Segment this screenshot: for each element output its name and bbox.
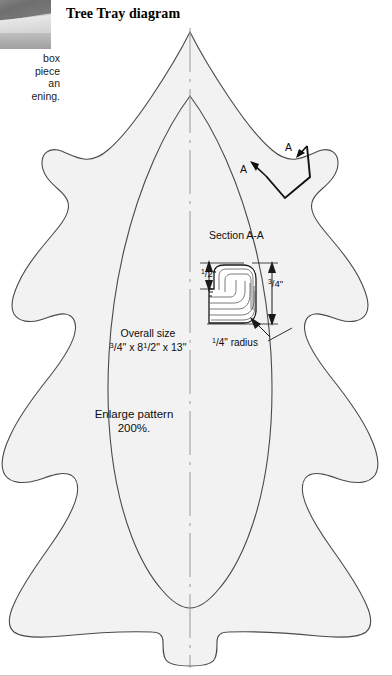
- dimension-label-three-quarter-inch: 3/4": [268, 278, 283, 289]
- enlarge-pattern-note: Enlarge pattern 200%.: [78, 408, 190, 435]
- dim-three-denominator: /4": [272, 278, 283, 289]
- dim-half-denominator: /2": [205, 268, 216, 279]
- section-mark-a-right: A: [285, 141, 292, 153]
- radius-denominator: /4" radius: [216, 337, 258, 348]
- overall-size-label: Overall size: [92, 327, 204, 340]
- dimension-label-half-inch: 1/2": [201, 268, 216, 279]
- section-mark-a-left: A: [240, 163, 247, 175]
- tree-tray-diagram-page: box piece an ening. Tree Tray diagram: [0, 0, 392, 676]
- overall-size-text-2: /2" x 13": [147, 341, 186, 353]
- enlarge-line-1: Enlarge pattern: [78, 408, 190, 422]
- overall-size-value: 3/4" x 81/2" x 13": [92, 340, 204, 354]
- radius-label: 1/4" radius: [212, 336, 258, 348]
- enlarge-line-2: 200%.: [78, 422, 190, 436]
- overall-size-text-1: /4" x 8: [114, 341, 143, 353]
- section-detail-title: Section A-A: [209, 229, 264, 241]
- overall-size-note: Overall size 3/4" x 81/2" x 13": [92, 327, 204, 353]
